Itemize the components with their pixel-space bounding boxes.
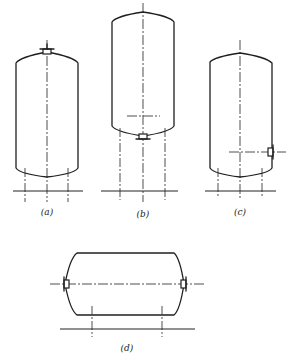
diagram-canvas [0,0,288,364]
panel-c-shell [210,53,272,177]
panel-a-label: (a) [41,207,53,217]
panel-b-vessel [101,3,178,202]
panel-d-vessel [50,253,206,337]
panel-a-vessel [13,40,83,202]
panel-c-vessel [205,40,286,200]
panel-b-label: (b) [137,209,150,219]
panel-c-label: (c) [234,207,246,217]
panel-d-label: (d) [121,343,134,353]
